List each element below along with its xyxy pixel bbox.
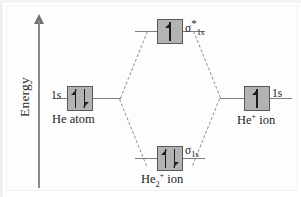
- left-1s-electrons: [68, 87, 92, 110]
- antibonding-electrons: [158, 20, 182, 43]
- bonding-level-line-a: [135, 158, 157, 159]
- right-species-suffix: ion: [256, 113, 275, 127]
- molecule-prefix: He: [141, 172, 156, 186]
- electron-arrow-down: [81, 89, 89, 108]
- electron-arrow-up: [253, 89, 261, 108]
- energy-axis-label: Energy: [17, 67, 33, 127]
- bonding-orbital-label: σ1s: [185, 144, 199, 159]
- left-species-label: He atom: [52, 112, 95, 127]
- molecule-suffix: ion: [164, 172, 183, 186]
- left-1s-orbital-box: [67, 86, 93, 111]
- molecule-label: He2+ ion: [141, 171, 183, 189]
- antibonding-orbital-label: σ*1s: [185, 17, 204, 37]
- right-1s-orbital-label: 1s: [272, 87, 282, 99]
- right-1s-level-line-a: [220, 98, 244, 99]
- right-species-label: He+ ion: [237, 112, 275, 128]
- right-species-prefix: He: [237, 113, 252, 127]
- electron-arrow-down: [171, 149, 179, 168]
- bonding-electrons: [158, 147, 182, 170]
- mo-diagram-figure: Energy 1s He atom: [0, 0, 301, 197]
- bonding-orbital-box: [157, 146, 183, 171]
- antibonding-level-line-a: [135, 31, 157, 32]
- left-1s-level-line-b: [93, 98, 121, 99]
- antibonding-subscript: 1s: [197, 27, 205, 37]
- bonding-subscript: 1s: [191, 149, 199, 159]
- dash-left-to-bonding: [119, 99, 147, 166]
- electron-arrow-up: [166, 22, 174, 41]
- dash-left-to-antibonding: [120, 31, 148, 98]
- right-1s-orbital-box: [244, 86, 270, 111]
- left-1s-orbital-label: 1s: [51, 89, 61, 101]
- figure-plate: Energy 1s He atom: [7, 6, 297, 190]
- dash-right-to-antibonding: [193, 31, 221, 98]
- electron-arrow-up: [72, 89, 80, 108]
- energy-axis-line: [38, 20, 40, 188]
- electron-arrow-up: [162, 149, 170, 168]
- antibonding-orbital-box: [157, 19, 183, 44]
- right-1s-electrons: [245, 87, 269, 110]
- molecule-count: 2: [156, 180, 160, 189]
